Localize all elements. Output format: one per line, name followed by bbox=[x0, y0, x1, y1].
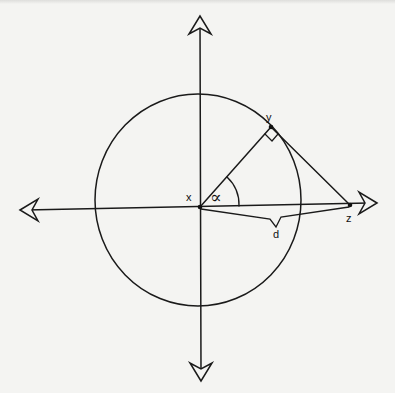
vertical-axis bbox=[200, 22, 201, 374]
point-x bbox=[198, 205, 203, 210]
label-y: y bbox=[266, 111, 272, 123]
point-y bbox=[269, 125, 274, 130]
point-z bbox=[348, 203, 353, 208]
horizontal-axis bbox=[26, 203, 369, 210]
geometry-figure: x y z d ∝ bbox=[0, 0, 395, 393]
label-z: z bbox=[346, 212, 352, 224]
label-x: x bbox=[186, 191, 192, 203]
angle-arc bbox=[227, 177, 239, 206]
label-alpha: ∝ bbox=[210, 187, 222, 207]
diagram-canvas: x y z d ∝ bbox=[0, 0, 395, 393]
right-angle-marker bbox=[265, 134, 278, 141]
tangent-yz bbox=[271, 127, 350, 205]
label-d: d bbox=[273, 228, 279, 240]
distance-brace bbox=[201, 207, 349, 227]
